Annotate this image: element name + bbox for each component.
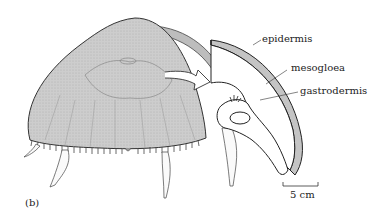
jellyfish-illustration (0, 0, 388, 218)
label-mesogloea: mesogloea (291, 63, 345, 73)
panel-label: (b) (25, 198, 39, 208)
scale-bar-label: 5 cm (290, 190, 315, 200)
label-gastrodermis: gastrodermis (300, 86, 367, 96)
scale-bar (283, 182, 318, 186)
diagram-canvas: epidermis mesogloea gastrodermis 5 cm (b… (0, 0, 388, 218)
label-epidermis: epidermis (262, 34, 312, 44)
body-wall-cross-section (211, 40, 302, 175)
